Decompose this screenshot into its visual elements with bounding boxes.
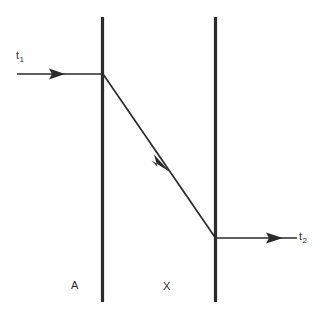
label-t1-base: t [16, 49, 19, 61]
label-t2-base: t [299, 230, 302, 242]
label-t2: t2 [299, 231, 307, 242]
diagonal-ray-line [103, 74, 216, 238]
label-t1: t1 [16, 50, 24, 61]
label-t1-subscript: 1 [20, 55, 24, 64]
diagram-canvas [0, 0, 328, 321]
label-region-x: X [163, 281, 170, 292]
label-t2-subscript: 2 [303, 236, 307, 245]
label-region-a: A [71, 280, 78, 291]
ray-diagram-figure: t1 t2 A X [0, 0, 328, 321]
